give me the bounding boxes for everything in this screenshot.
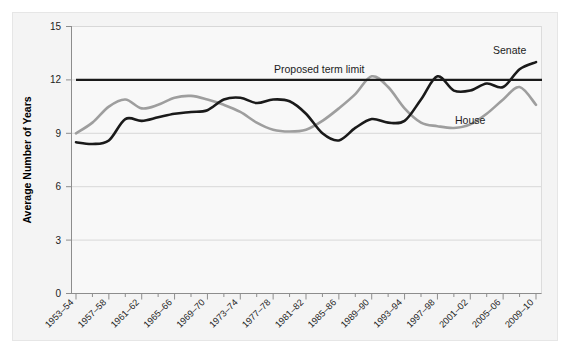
- reference-line-label: Proposed term limit: [274, 63, 365, 75]
- x-tick-label: 1973–74: [207, 297, 239, 329]
- x-tick-label: 1957–58: [76, 297, 108, 329]
- x-tick-label: 2001–02: [437, 297, 469, 329]
- y-tick-label-15: 15: [50, 21, 62, 32]
- series-label-house: House: [455, 114, 486, 126]
- y-axis-title: Average Number of Years: [21, 96, 33, 223]
- x-tick-label: 2005–06: [470, 297, 502, 329]
- y-axis-ticks: [66, 27, 71, 294]
- x-tick-label: 1981–82: [273, 297, 305, 329]
- x-tick-label: 2009–10: [503, 297, 535, 329]
- y-tick-label-6: 6: [55, 181, 61, 192]
- y-tick-label-3: 3: [55, 235, 61, 246]
- y-tick-label-0: 0: [55, 288, 61, 299]
- line-chart: 15 12 9 6 3 0 Average Number of Years: [0, 0, 571, 353]
- x-tick-label: 1977–78: [240, 297, 272, 329]
- x-tick-labels: 1953–54 1957–58 1961–62 1965–66 1969–70 …: [43, 297, 535, 329]
- x-tick-label: 1965–66: [142, 297, 174, 329]
- chart-figure: 15 12 9 6 3 0 Average Number of Years: [0, 0, 571, 353]
- y-tick-label-9: 9: [55, 128, 61, 139]
- series-label-senate: Senate: [493, 44, 526, 56]
- x-axis-ticks: [76, 294, 536, 300]
- x-tick-label: 1989–90: [339, 297, 371, 329]
- x-tick-label: 1985–86: [306, 297, 338, 329]
- y-tick-label-12: 12: [50, 74, 62, 85]
- x-tick-label: 1953–54: [43, 297, 75, 329]
- x-tick-label: 1969–70: [174, 297, 206, 329]
- x-tick-label: 1961–62: [109, 297, 141, 329]
- x-tick-label: 1993–94: [372, 297, 404, 329]
- x-tick-label: 1997–98: [404, 297, 436, 329]
